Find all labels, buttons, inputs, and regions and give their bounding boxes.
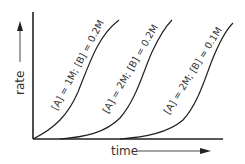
x-axis-label: time bbox=[111, 144, 138, 158]
series-label-2: [A] = 2M; [B] = 0.2M bbox=[100, 22, 160, 115]
y-axis-arrow-head-icon bbox=[17, 21, 23, 31]
series-label-3: [A] = 2M; [B] = 0.1M bbox=[161, 25, 224, 116]
rate-vs-time-chart: [A] = 1M; [B] = 0.2M [A] = 2M; [B] = 0.2… bbox=[0, 0, 245, 164]
y-axis-label: rate bbox=[13, 71, 27, 95]
x-axis-arrow-head-icon bbox=[200, 148, 211, 154]
curve-a2m-b02m bbox=[60, 20, 172, 139]
series-label-1: [A] = 1M; [B] = 0.2M bbox=[49, 18, 106, 112]
